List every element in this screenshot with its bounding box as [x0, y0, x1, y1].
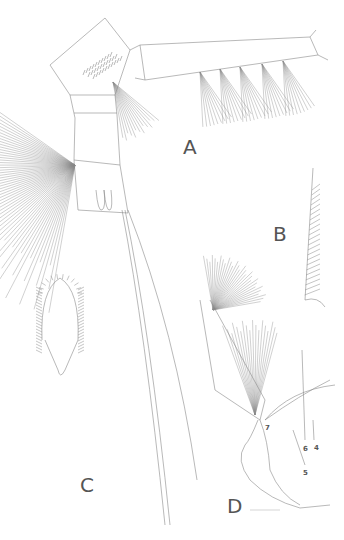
- panel-label-b: B: [273, 224, 287, 244]
- illustration-drawing: [0, 0, 344, 540]
- panel-label-c: C: [80, 475, 94, 495]
- seta-number-5: 5: [303, 470, 308, 477]
- panel-label-d: D: [227, 496, 242, 516]
- panel-label-a: A: [183, 137, 197, 157]
- seta-number-7: 7: [265, 425, 270, 432]
- scientific-figure: A B C D 7 6 4 5: [0, 0, 344, 540]
- seta-number-6: 6: [303, 446, 308, 453]
- seta-number-4: 4: [314, 445, 319, 452]
